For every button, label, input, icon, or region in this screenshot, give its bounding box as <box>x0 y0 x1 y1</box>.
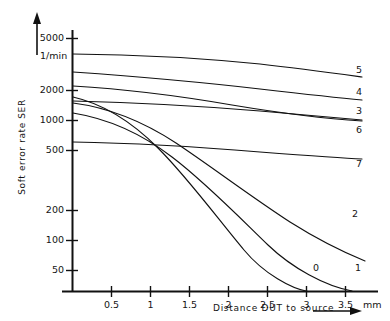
curve-label-5: 5 <box>356 64 362 75</box>
y-axis-title: Soft error rate SER <box>17 82 27 212</box>
curve-label-4: 4 <box>356 86 362 97</box>
x-tick-label-1: 1 <box>135 299 166 310</box>
y-tick-label-50: 50 <box>18 264 64 275</box>
curve-2 <box>73 103 365 261</box>
x-tick-label-1-5: 1.5 <box>174 299 205 310</box>
x-tick-label-3-5: 3.5 <box>330 299 361 310</box>
curve-label-0: 0 <box>313 262 319 273</box>
curve-label-1: 1 <box>355 262 361 273</box>
curve-label-3: 3 <box>356 105 362 116</box>
curve-label-2: 2 <box>352 208 358 219</box>
curve-1 <box>73 113 352 291</box>
y-tick-label-5000: 5000 <box>18 32 64 43</box>
y-axis-unit: 1/min <box>40 50 67 61</box>
curve-0 <box>73 97 308 292</box>
x-tick-label-0-5: 0.5 <box>96 299 127 310</box>
y-tick-label-100: 100 <box>18 234 64 245</box>
curve-5 <box>73 54 362 77</box>
curve-7 <box>73 142 362 159</box>
x-axis-title: Distance DUT to source <box>213 303 334 313</box>
curve-label-7: 7 <box>356 158 362 169</box>
curve-4 <box>73 72 362 100</box>
curve-label-6: 6 <box>356 124 362 135</box>
x-axis-unit: mm <box>363 299 382 310</box>
